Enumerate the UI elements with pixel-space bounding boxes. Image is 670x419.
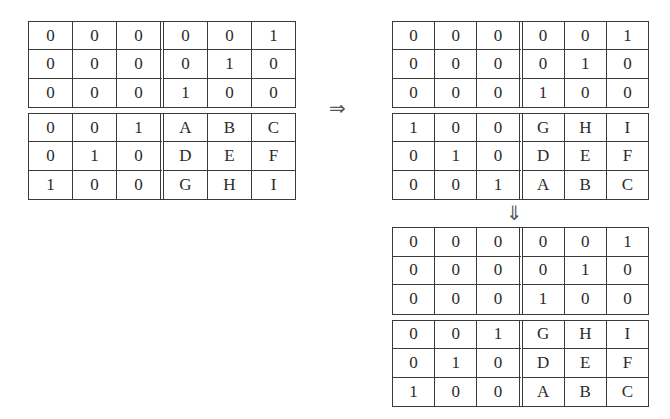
matrix-cell: 0 bbox=[477, 79, 522, 107]
matrix-row: 001GHI bbox=[393, 321, 648, 350]
matrix-row: 000100 bbox=[29, 79, 295, 107]
matrix-row: 010DEF bbox=[393, 142, 648, 170]
matrix-row: 100ABC bbox=[393, 378, 648, 407]
matrix-cell: 0 bbox=[607, 285, 648, 314]
matrix-cell: 0 bbox=[393, 257, 435, 286]
matrix-cell: 1 bbox=[393, 378, 435, 407]
matrix-cell: C bbox=[252, 114, 295, 142]
matrix-cell: 0 bbox=[73, 114, 117, 142]
right-arrow-icon: ⇒ bbox=[329, 96, 346, 120]
matrix-cell: 0 bbox=[117, 142, 164, 170]
matrix-top-block: 000001000010000100 bbox=[28, 21, 296, 108]
matrix-cell: 0 bbox=[435, 79, 477, 107]
matrix-cell: 0 bbox=[208, 22, 252, 50]
matrix-cell: 0 bbox=[73, 22, 117, 50]
matrix-cell: 0 bbox=[565, 79, 607, 107]
matrix-cell: 0 bbox=[164, 50, 208, 78]
matrix-cell: 0 bbox=[435, 321, 477, 350]
matrix-cell: H bbox=[565, 114, 607, 142]
matrix-row: 010DEF bbox=[393, 349, 648, 378]
matrix-cell: D bbox=[523, 349, 565, 378]
matrix-cell: 1 bbox=[477, 171, 522, 199]
matrix-row: 000001 bbox=[393, 228, 648, 257]
matrix-cell: 1 bbox=[73, 142, 117, 170]
matrix-cell: 0 bbox=[117, 171, 164, 199]
matrix-cell: 0 bbox=[393, 321, 435, 350]
matrix-cell: D bbox=[523, 142, 565, 170]
matrix-cell: 0 bbox=[73, 50, 117, 78]
matrix-rows-swapped: 000001000010000100100GHI010DEF001ABC bbox=[392, 21, 649, 200]
matrix-cell: H bbox=[208, 171, 252, 199]
matrix-bottom-block: 001ABC010DEF100GHI bbox=[28, 113, 296, 200]
matrix-cell: A bbox=[164, 114, 208, 142]
matrix-cell: 0 bbox=[565, 22, 607, 50]
matrix-cell: 0 bbox=[435, 114, 477, 142]
matrix-cell: 0 bbox=[29, 114, 73, 142]
matrix-cell: 0 bbox=[29, 79, 73, 107]
matrix-cell: I bbox=[607, 114, 648, 142]
matrix-top-block: 000001000010000100 bbox=[392, 21, 649, 108]
matrix-cell: H bbox=[565, 321, 607, 350]
matrix-cell: 0 bbox=[117, 22, 164, 50]
matrix-bottom-block: 100GHI010DEF001ABC bbox=[392, 113, 649, 200]
matrix-result: 000001000010000100001GHI010DEF100ABC bbox=[392, 227, 649, 407]
matrix-cell: A bbox=[523, 171, 565, 199]
matrix-cell: 0 bbox=[435, 171, 477, 199]
matrix-cell: 0 bbox=[73, 79, 117, 107]
matrix-cell: C bbox=[607, 171, 648, 199]
matrix-cell: 1 bbox=[435, 142, 477, 170]
matrix-cell: 0 bbox=[523, 50, 565, 78]
matrix-cell: 0 bbox=[607, 79, 648, 107]
matrix-cell: E bbox=[208, 142, 252, 170]
matrix-cell: 0 bbox=[164, 22, 208, 50]
matrix-cell: 0 bbox=[477, 114, 522, 142]
matrix-cell: 0 bbox=[477, 378, 522, 407]
matrix-cell: 1 bbox=[607, 228, 648, 257]
matrix-cell: 0 bbox=[565, 228, 607, 257]
matrix-cell: G bbox=[164, 171, 208, 199]
matrix-cell: 0 bbox=[252, 79, 295, 107]
matrix-cell: 0 bbox=[393, 171, 435, 199]
matrix-cell: 0 bbox=[29, 22, 73, 50]
matrix-cell: 0 bbox=[607, 50, 648, 78]
matrix-cell: 0 bbox=[523, 257, 565, 286]
matrix-cell: 0 bbox=[435, 50, 477, 78]
matrix-cell: 0 bbox=[477, 349, 522, 378]
matrix-cell: 1 bbox=[607, 22, 648, 50]
matrix-cell: C bbox=[607, 378, 648, 407]
matrix-cell: 0 bbox=[477, 257, 522, 286]
matrix-cell: 0 bbox=[393, 79, 435, 107]
matrix-cell: 1 bbox=[565, 50, 607, 78]
matrix-cell: 0 bbox=[208, 79, 252, 107]
matrix-cell: 1 bbox=[523, 285, 565, 314]
matrix-cell: 0 bbox=[393, 349, 435, 378]
matrix-cell: 1 bbox=[393, 114, 435, 142]
matrix-row: 001ABC bbox=[29, 114, 295, 142]
matrix-cell: 0 bbox=[29, 142, 73, 170]
matrix-cell: B bbox=[565, 378, 607, 407]
matrix-cell: 1 bbox=[29, 171, 73, 199]
matrix-row: 000010 bbox=[393, 257, 648, 286]
matrix-cell: 0 bbox=[393, 50, 435, 78]
matrix-cell: 0 bbox=[477, 228, 522, 257]
down-arrow-icon: ⇓ bbox=[506, 201, 523, 225]
matrix-cell: B bbox=[208, 114, 252, 142]
matrix-cell: F bbox=[607, 349, 648, 378]
matrix-cell: G bbox=[523, 114, 565, 142]
matrix-cell: 0 bbox=[393, 142, 435, 170]
matrix-cell: F bbox=[607, 142, 648, 170]
matrix-cell: 0 bbox=[393, 285, 435, 314]
matrix-bottom-block: 001GHI010DEF100ABC bbox=[392, 320, 649, 408]
matrix-cell: 0 bbox=[252, 50, 295, 78]
matrix-cell: 0 bbox=[435, 378, 477, 407]
matrix-cell: 0 bbox=[477, 142, 522, 170]
matrix-cell: I bbox=[607, 321, 648, 350]
matrix-row: 001ABC bbox=[393, 171, 648, 199]
matrix-cell: F bbox=[252, 142, 295, 170]
matrix-cell: 1 bbox=[565, 257, 607, 286]
matrix-cell: 0 bbox=[435, 285, 477, 314]
matrix-cell: 0 bbox=[477, 50, 522, 78]
matrix-cell: 0 bbox=[73, 171, 117, 199]
matrix-row: 000100 bbox=[393, 285, 648, 314]
matrix-row: 000100 bbox=[393, 79, 648, 107]
